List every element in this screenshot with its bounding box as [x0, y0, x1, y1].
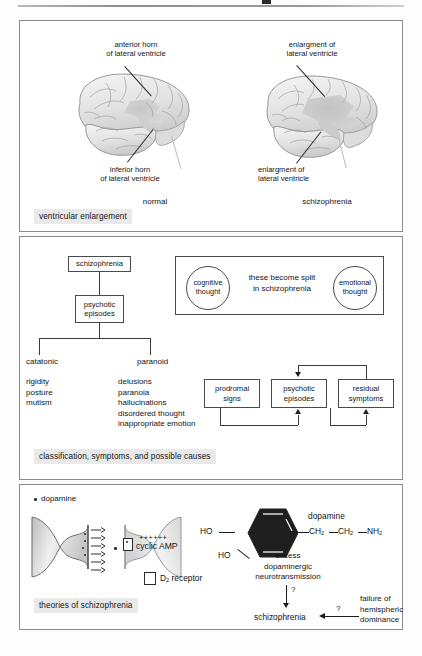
- label-excess-dopaminergic: excess dopaminergic neurotransmission: [238, 551, 338, 583]
- chain-a-main: CH: [309, 526, 321, 536]
- edge-excess-to-schizophrenia: [286, 585, 287, 604]
- edge-prodromal-across: [220, 425, 298, 426]
- label-enlargement-upper: enlargment of lateral ventricle: [262, 40, 362, 59]
- header-mark: [262, 0, 271, 4]
- edge-branch-catatonic: [39, 338, 40, 355]
- label-inferior-horn: inferior horn of lateral ventricle: [80, 165, 180, 184]
- cleft-dopamine-dot-icon: [114, 547, 117, 550]
- edge-psychotic-down: [330, 408, 331, 425]
- label-question-vertical: ?: [291, 585, 295, 594]
- flowbox-prodromal-signs[interactable]: prodromal signs: [204, 379, 260, 408]
- brain-illustration-schizophrenia: [238, 71, 383, 163]
- chain-c-sub: 2: [379, 530, 382, 536]
- edge-hemispheric-to-schizophrenia: [325, 616, 359, 617]
- flowbox-psychotic-episodes-course[interactable]: psychotic episodes: [271, 379, 327, 408]
- arrowhead-down-to-psychotic: [295, 372, 301, 377]
- label-subtype-paranoid: paranoid: [137, 357, 168, 366]
- label-ho-lower: HO: [218, 551, 231, 560]
- label-d2-receptor: D2 receptor: [160, 574, 202, 585]
- label-split-description: these become split in schizophrenia: [233, 273, 331, 294]
- edge-residual-across-top: [298, 365, 366, 366]
- label-question-horizontal: ?: [336, 604, 340, 613]
- circle-cognitive-thought: cognitive thought: [186, 266, 230, 310]
- label-condition-normal: normal: [120, 197, 190, 206]
- chain-b-sub: 2: [350, 530, 353, 536]
- label-dopamine-key: dopamine: [41, 494, 76, 503]
- bond-ch2-ch2: [329, 532, 338, 533]
- label-anterior-horn: anterior horn of lateral ventricle: [86, 40, 186, 59]
- label-schizophrenia-outcome: schizophrenia: [254, 613, 306, 622]
- bound-d2-receptor-icon: [123, 538, 133, 551]
- bond-ch2-nh2: [358, 532, 367, 533]
- chain-c-main: NH: [367, 526, 379, 536]
- label-dopamine-molecule-title: dopamine: [308, 512, 345, 521]
- list-symptoms-paranoid: delusions paranoia hallucinations disord…: [118, 377, 195, 430]
- edge-psychotic-across: [330, 425, 366, 426]
- bond-ring-to-ch2: [297, 532, 309, 533]
- label-chain-ch2-a: CH2: [309, 527, 324, 538]
- page-root: anterior horn of lateral ventricle infer…: [0, 0, 422, 656]
- free-d2-receptor-icon: [144, 572, 156, 585]
- edge-residual-up: [366, 365, 367, 379]
- label-failure-hemispheric-dominance: failure of hemispheric dominance: [360, 594, 403, 626]
- flowbox-schizophrenia-root[interactable]: schizophrenia: [68, 256, 131, 272]
- panel-ventricular-enlargement: anterior horn of lateral ventricle infer…: [19, 20, 403, 232]
- label-chain-ch2-b: CH2: [338, 527, 353, 538]
- header-rule: [18, 5, 404, 7]
- edge-into-psychotic-up: [298, 415, 299, 425]
- label-cyclic-amp: cyclic AMP: [136, 542, 178, 551]
- d2-receptor-tail: receptor: [169, 573, 202, 583]
- caption-ventricular-enlargement: ventricular enlargement: [34, 209, 132, 224]
- label-enlargement-lower: enlargment of lateral ventricle: [258, 165, 368, 184]
- chain-b-main: CH: [338, 526, 350, 536]
- flowbox-psychotic-episodes[interactable]: psychotic episodes: [75, 295, 124, 323]
- panel-classification: schizophrenia psychotic episodes cataton…: [19, 236, 403, 480]
- panel-theories: dopamine: [19, 484, 403, 630]
- arrowhead-to-residual: [363, 409, 369, 414]
- list-symptoms-catatonic: rigidity posture mutism: [26, 377, 53, 409]
- dopamine-key-dot-icon: [34, 498, 37, 501]
- edge-branch-horizontal: [39, 338, 150, 339]
- flowbox-residual-symptoms[interactable]: residual symptoms: [338, 379, 394, 408]
- arrowhead-excess-to-schizophrenia: [283, 603, 289, 608]
- edge-root-to-psychotic: [99, 272, 100, 295]
- split-thought-box: cognitive thought these become split in …: [175, 256, 384, 315]
- arrowhead-hemispheric-to-schizophrenia: [319, 613, 325, 619]
- neurotransmitter-release-arrows-icon: [90, 526, 108, 580]
- chain-a-sub: 2: [321, 530, 324, 536]
- edge-psychotic-down: [99, 323, 100, 338]
- caption-theories: theories of schizophrenia: [34, 598, 138, 613]
- caption-classification: classification, symptoms, and possible c…: [34, 449, 216, 464]
- circle-emotional-thought: emotional thought: [333, 266, 377, 310]
- edge-prodromal-down: [220, 408, 221, 425]
- bond-ho-upper: [219, 532, 235, 533]
- edge-into-residual-up: [366, 415, 367, 425]
- label-condition-schizophrenia: schizophrenia: [282, 197, 372, 206]
- label-subtype-catatonic: catatonic: [26, 357, 58, 366]
- arrowhead-to-psychotic: [295, 409, 301, 414]
- edge-branch-paranoid: [150, 338, 151, 355]
- label-chain-nh2: NH2: [367, 527, 382, 538]
- label-ho-upper: HO: [200, 527, 213, 536]
